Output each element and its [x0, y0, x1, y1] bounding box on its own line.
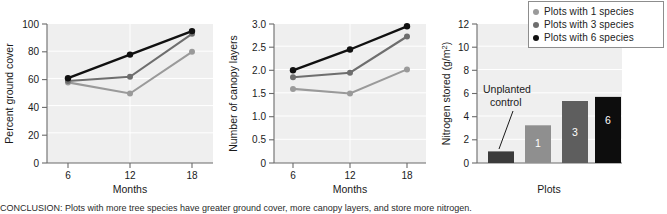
x-axis-ticks [293, 163, 407, 168]
x-axis-title: Months [113, 183, 147, 195]
figure-caption: CONCLUSION: Plots with more tree species… [0, 203, 667, 214]
y-tick-label: 6 [463, 88, 469, 99]
legend-label-1-species: Plots with 1 species [544, 6, 634, 17]
y-tick-label: 3.0 [252, 19, 266, 30]
legend-label-6-species: Plots with 6 species [544, 32, 634, 43]
legend-item-3-species: Plots with 3 species [533, 18, 658, 31]
y-axis-title-tail: ) [440, 42, 452, 46]
y-tick-label: 0 [463, 158, 469, 169]
y-tick-label: 2.0 [252, 65, 266, 76]
bar-unplanted-control [488, 151, 514, 163]
y-tick-label: 8 [463, 65, 469, 76]
chart-percent-ground-cover: 0 20 40 60 80 100 6 12 18 Months Percent… [0, 0, 222, 196]
y-tick-label: 0.5 [252, 134, 266, 145]
y-tick-label: 20 [28, 130, 40, 141]
y-tick-label: 60 [28, 74, 40, 85]
y-tick-label: 12 [458, 19, 470, 30]
bar-6-species [595, 97, 621, 163]
y-tick-label: 2 [463, 134, 469, 145]
y-tick-label: 2.5 [252, 42, 266, 53]
y-axis-title: Number of canopy layers [227, 35, 239, 152]
x-tick-label: 12 [124, 170, 136, 181]
y-axis-ticks [472, 24, 477, 163]
y-axis-ticks [269, 24, 274, 163]
figure-multi-panel: 0 20 40 60 80 100 6 12 18 Months Percent… [0, 0, 667, 214]
y-axis-title: Nitrogen stored (g/m2) [440, 42, 453, 145]
legend-dot-6-species-icon [533, 35, 539, 41]
bar-label-1: 1 [535, 137, 541, 149]
y-tick-label: 10 [458, 42, 470, 53]
y-tick-label: 100 [22, 19, 39, 30]
x-tick-label: 6 [290, 170, 296, 181]
y-tick-label: 40 [28, 102, 40, 113]
x-axis-title: Plots [537, 183, 560, 195]
chart-number-of-canopy-layers: 0 0.5 1.0 1.5 2.0 2.5 3.0 6 12 18 Months… [224, 0, 436, 196]
x-axis-title: Months [333, 183, 367, 195]
bar-label-3: 3 [572, 126, 578, 138]
x-tick-label: 12 [344, 170, 356, 181]
y-axis-title: Percent ground cover [3, 43, 15, 144]
legend-item-1-species: Plots with 1 species [533, 5, 658, 18]
x-tick-label: 6 [65, 170, 71, 181]
y-tick-label: 0 [33, 158, 39, 169]
x-axis-ticks [68, 163, 192, 168]
x-tick-label: 18 [186, 170, 198, 181]
y-tick-label: 1.5 [252, 88, 266, 99]
y-tick-label: 80 [28, 46, 40, 57]
annotation-line1: Unplanted [483, 83, 531, 95]
annotation-line2: control [490, 96, 522, 108]
y-axis-title-main: Nitrogen stored (g/m [440, 49, 452, 145]
y-axis-ticks [42, 24, 47, 163]
y-tick-label: 0 [260, 158, 266, 169]
legend-item-6-species: Plots with 6 species [533, 31, 658, 44]
y-tick-label: 1.0 [252, 111, 266, 122]
legend-dot-1-species-icon [533, 9, 539, 15]
legend: Plots with 1 species Plots with 3 specie… [528, 1, 664, 48]
y-tick-label: 4 [463, 111, 469, 122]
x-tick-label: 18 [401, 170, 413, 181]
legend-dot-3-species-icon [533, 22, 539, 28]
legend-label-3-species: Plots with 3 species [544, 19, 634, 30]
bar-label-6: 6 [605, 114, 611, 126]
